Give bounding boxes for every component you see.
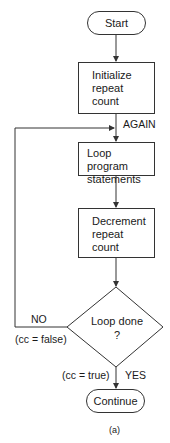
init-line-3: count <box>92 95 154 108</box>
decrement-line-1: Decrement <box>92 215 154 228</box>
init-line-2: repeat <box>92 82 154 95</box>
loop-line-2: statements <box>87 173 154 186</box>
yes-label: YES <box>125 369 146 381</box>
init-line-1: Initialize <box>92 69 154 82</box>
figure-caption: (a) <box>109 424 120 436</box>
decrement-line-3: count <box>92 241 154 254</box>
cc-false-label: (cc = false) <box>15 333 67 345</box>
decision-line-2: ? <box>86 328 148 342</box>
cc-true-label: (cc = true) <box>62 369 110 381</box>
loop-program-statements-box: Loop program statements <box>78 142 155 176</box>
no-label: NO <box>31 313 47 325</box>
continue-label: Continue <box>93 395 137 408</box>
again-label: AGAIN <box>123 118 156 130</box>
decrement-line-2: repeat <box>92 228 154 241</box>
continue-terminal: Continue <box>86 389 145 413</box>
initialize-repeat-count-box: Initialize repeat count <box>78 62 155 114</box>
start-label: Start <box>105 17 128 30</box>
loop-line-1: Loop program <box>87 147 154 173</box>
start-terminal: Start <box>87 11 146 35</box>
decision-line-1: Loop done <box>86 314 148 328</box>
decrement-repeat-count-box: Decrement repeat count <box>78 208 155 258</box>
decision-label: Loop done ? <box>86 314 148 342</box>
